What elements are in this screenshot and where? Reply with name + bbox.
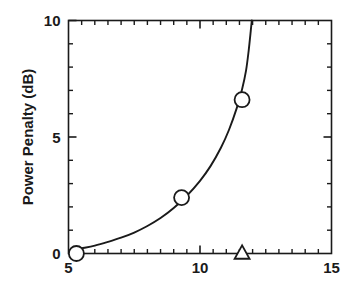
x-tick-label: 10 <box>192 259 209 276</box>
y-tick-label: 10 <box>44 12 61 29</box>
circle-marker <box>174 190 189 205</box>
power-penalty-scatter-chart: 51015 0510 Power Penalty (dB) <box>0 0 350 296</box>
chart-figure: 51015 0510 Power Penalty (dB) <box>0 0 350 296</box>
x-tick-label: 15 <box>323 259 340 276</box>
y-tick-label: 0 <box>52 245 60 262</box>
circle-marker <box>69 246 84 261</box>
x-tick-label: 5 <box>64 259 72 276</box>
circle-marker <box>235 92 250 107</box>
y-tick-label: 5 <box>52 129 60 146</box>
y-axis-title: Power Penalty (dB) <box>19 69 36 206</box>
